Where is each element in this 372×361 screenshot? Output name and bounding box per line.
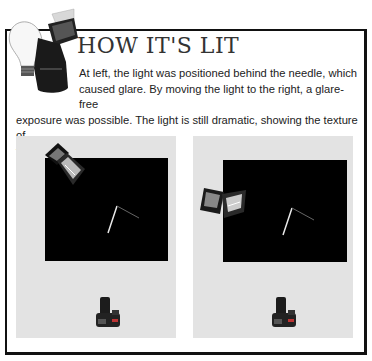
softbox-light-icon	[43, 143, 93, 193]
lighting-diagram-left	[16, 136, 176, 338]
body-line-1: At left, the light was positioned behind…	[16, 66, 358, 82]
body-line-2: caused glare. By moving the light to the…	[16, 82, 358, 113]
camera-icon	[94, 297, 122, 329]
camera-icon	[270, 297, 298, 329]
needle-and-thread	[276, 198, 326, 238]
page-title: HOW IT'S LIT	[77, 32, 239, 59]
lighting-diagram-right	[193, 136, 353, 338]
softbox-light-icon	[200, 186, 254, 222]
needle-and-thread	[101, 196, 151, 236]
